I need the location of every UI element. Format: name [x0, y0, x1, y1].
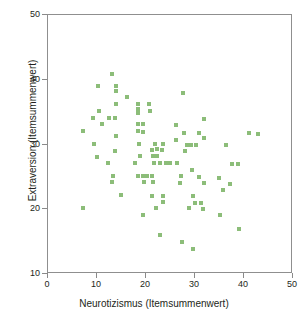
data-point: [136, 102, 140, 106]
data-point: [161, 194, 165, 198]
data-point: [197, 131, 201, 135]
data-point: [161, 200, 165, 204]
data-point: [201, 207, 205, 211]
data-point: [164, 161, 168, 165]
data-point: [100, 122, 104, 126]
y-tick-label-20: 20: [14, 203, 40, 213]
data-point: [194, 143, 198, 147]
data-point: [175, 161, 179, 165]
data-point: [106, 161, 110, 165]
x-tick-mark-10: [96, 273, 97, 278]
data-point: [136, 129, 140, 133]
data-point: [110, 72, 114, 76]
data-point: [158, 161, 162, 165]
data-point: [168, 161, 172, 165]
data-point: [191, 247, 195, 251]
data-point: [256, 132, 260, 136]
data-point: [97, 109, 101, 113]
data-point: [197, 175, 201, 179]
data-point: [174, 123, 178, 127]
data-point: [221, 188, 225, 192]
x-tick-label-10: 10: [81, 279, 111, 289]
y-tick-label-10: 10: [14, 268, 40, 278]
data-point: [151, 180, 155, 184]
data-points-layer: [48, 15, 291, 272]
data-point: [155, 154, 159, 158]
data-point: [158, 233, 162, 237]
data-point: [150, 148, 154, 152]
plot-area: [47, 14, 292, 273]
data-point: [114, 89, 118, 93]
data-point: [119, 193, 123, 197]
data-point: [141, 213, 145, 217]
data-point: [142, 180, 146, 184]
data-point: [160, 148, 164, 152]
data-point: [153, 142, 157, 146]
x-tick-mark-40: [243, 273, 244, 278]
x-tick-label-50: 50: [277, 279, 307, 289]
x-tick-label-0: 0: [32, 279, 62, 289]
data-point: [161, 142, 165, 146]
data-point: [174, 138, 178, 142]
y-tick-label-30: 30: [14, 139, 40, 149]
data-point: [187, 206, 191, 210]
data-point: [136, 122, 140, 126]
data-point: [178, 181, 182, 185]
data-point: [185, 143, 189, 147]
data-point: [125, 95, 129, 99]
data-point: [217, 176, 221, 180]
data-point: [81, 206, 85, 210]
data-point: [137, 142, 141, 146]
data-point: [150, 174, 154, 178]
data-point: [180, 240, 184, 244]
data-point: [92, 142, 96, 146]
y-tick-label-50: 50: [14, 9, 40, 19]
x-tick-mark-20: [145, 273, 146, 278]
data-point: [152, 161, 156, 165]
data-point: [141, 122, 145, 126]
data-point: [183, 149, 187, 153]
data-point: [237, 227, 241, 231]
x-tick-label-40: 40: [228, 279, 258, 289]
y-tick-label-40: 40: [14, 74, 40, 84]
x-axis-title: Neurotizismus (Itemsummenwert): [0, 298, 308, 309]
data-point: [81, 129, 85, 133]
data-point: [154, 206, 158, 210]
data-point: [114, 84, 118, 88]
data-point: [182, 131, 186, 135]
x-tick-label-20: 20: [130, 279, 160, 289]
data-point: [95, 155, 99, 159]
data-point: [148, 109, 152, 113]
data-point: [113, 149, 117, 153]
data-point: [155, 147, 159, 151]
data-point: [191, 194, 195, 198]
data-point: [113, 116, 117, 120]
data-point: [224, 143, 228, 147]
data-point: [199, 201, 203, 205]
data-point: [110, 180, 114, 184]
x-tick-mark-0: [47, 273, 48, 278]
data-point: [202, 136, 206, 140]
data-point: [114, 102, 118, 106]
scatter-chart-figure: Extraversion (Itemsummenwert) 50 40 30 2…: [0, 0, 308, 321]
data-point: [218, 213, 222, 217]
data-point: [138, 154, 142, 158]
data-point: [96, 84, 100, 88]
data-point: [141, 130, 145, 134]
data-point: [133, 161, 137, 165]
data-point: [202, 117, 206, 121]
data-point: [202, 181, 206, 185]
data-point: [228, 182, 232, 186]
data-point: [193, 201, 197, 205]
data-point: [145, 174, 149, 178]
data-point: [181, 91, 185, 95]
x-tick-mark-30: [194, 273, 195, 278]
data-point: [179, 174, 183, 178]
data-point: [236, 162, 240, 166]
data-point: [114, 134, 118, 138]
x-tick-mark-50: [292, 273, 293, 278]
data-point: [107, 116, 111, 120]
data-point: [247, 131, 251, 135]
data-point: [147, 102, 151, 106]
data-point: [150, 194, 154, 198]
